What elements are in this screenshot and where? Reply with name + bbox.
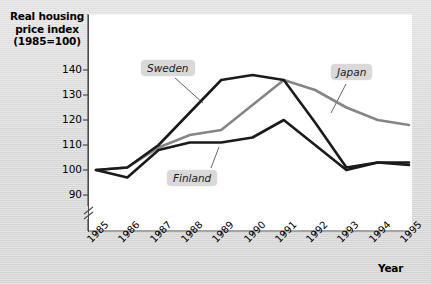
y-axis-title-line-1: Real housing	[8, 10, 86, 23]
leader-line-sweden	[175, 78, 203, 103]
chart-figure: Real housing price index (1985=100) Year…	[0, 0, 431, 284]
y-tick-label-130: 130	[48, 88, 82, 100]
y-tick-label-90: 90	[48, 188, 82, 200]
leader-line-finland	[211, 147, 219, 168]
y-tick-label-120: 120	[48, 113, 82, 125]
y-tick-label-140: 140	[48, 63, 82, 75]
y-tick-label-110: 110	[48, 138, 82, 150]
x-axis-title: Year	[378, 262, 403, 275]
y-axis-title: Real housing price index (1985=100)	[8, 10, 86, 48]
series-label-japan[interactable]: Japan	[331, 64, 372, 80]
y-axis-title-line-3: (1985=100)	[8, 35, 86, 48]
series-label-finland[interactable]: Finland	[167, 170, 217, 186]
series-line-finland	[96, 120, 409, 178]
series-line-sweden	[96, 75, 409, 170]
series-label-sweden[interactable]: Sweden	[141, 60, 195, 76]
y-axis-title-line-2: price index	[8, 23, 86, 36]
y-tick-label-100: 100	[48, 163, 82, 175]
y-axis-break-icon	[84, 207, 93, 219]
leader-line-japan	[331, 84, 346, 113]
